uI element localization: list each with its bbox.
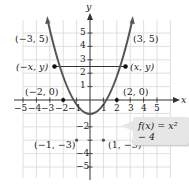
x-tick-label: 1 — [101, 104, 107, 113]
y-tick-label: 4 — [80, 41, 86, 50]
point-neg2-0 — [61, 98, 65, 102]
x-tick-label: −2 — [55, 104, 68, 113]
function-label-box: f(x) = x² − 4 — [133, 117, 189, 145]
y-tick-label: 2 — [80, 68, 86, 77]
x-tick-label: −5 — [14, 104, 27, 113]
label-pointer — [121, 121, 133, 131]
point-x-y — [123, 64, 128, 69]
point-label: (3, 5) — [133, 34, 159, 44]
point-1-neg3 — [102, 139, 105, 142]
point-neg-x-y — [52, 64, 57, 69]
point-2-0 — [115, 98, 119, 102]
point-label: (−1, −3) — [34, 140, 75, 150]
point-label: (−3, 5) — [15, 34, 49, 44]
x-axis-label: x — [181, 95, 186, 105]
y-tick-label: −4 — [76, 149, 89, 158]
point-label: (2, 0) — [123, 87, 149, 97]
y-tick-label: −2 — [76, 122, 89, 131]
x-tick-label: 4 — [141, 104, 147, 113]
x-tick-label: −3 — [41, 104, 54, 113]
point-label: (x, y) — [130, 62, 154, 72]
y-axis-label: y — [86, 2, 91, 12]
y-tick-label: 5 — [80, 28, 86, 37]
y-tick-label: 3 — [80, 55, 86, 64]
point-neg1-neg3 — [75, 139, 78, 142]
x-tick-label: −1 — [68, 104, 81, 113]
x-axis-arrow-icon — [173, 97, 180, 103]
x-tick-label: −4 — [28, 104, 41, 113]
point-label: (−x, y) — [16, 62, 48, 72]
y-tick-label: −5 — [76, 162, 89, 171]
x-tick-label: 2 — [114, 104, 120, 113]
y-axis-arrow-icon — [87, 13, 93, 20]
x-tick-label: 5 — [154, 104, 160, 113]
point-label: (−2, 0) — [25, 87, 59, 97]
y-tick-label: 1 — [80, 81, 86, 90]
x-tick-label: 3 — [128, 104, 134, 113]
